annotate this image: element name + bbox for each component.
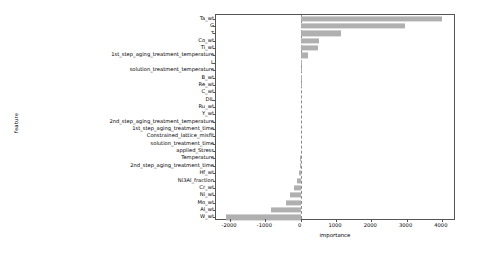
x-axis-title: importance: [215, 232, 455, 238]
y-tick-label: Re_wt: [199, 80, 214, 87]
y-tick-mark: [213, 203, 216, 204]
y-tick-label: solution_treatment_time: [151, 139, 214, 146]
y-tick-mark: [213, 173, 216, 174]
x-tick-label: -2000: [222, 222, 237, 228]
y-tick-mark: [213, 63, 216, 64]
y-tick-mark: [213, 70, 216, 71]
y-tick-mark: [213, 181, 216, 182]
bar: [301, 38, 319, 43]
y-tick-mark: [213, 166, 216, 167]
y-tick-mark: [213, 19, 216, 20]
y-tick-mark: [213, 129, 216, 130]
y-tick-label: G: [210, 22, 214, 29]
y-tick-mark: [213, 151, 216, 152]
y-tick-label: Al_wt: [200, 205, 214, 212]
y-tick-mark: [213, 78, 216, 79]
y-tick-label: applied_Stress: [176, 147, 214, 154]
bar: [301, 23, 405, 28]
bar: [294, 185, 301, 190]
x-tick-label: 0: [298, 222, 301, 228]
x-tick-label: -1000: [257, 222, 272, 228]
y-tick-label: Temperature: [181, 154, 214, 161]
y-tick-mark: [213, 107, 216, 108]
y-tick-label: Cr_wt: [199, 183, 214, 190]
y-tick-label: Constrained_lattice_misfit: [147, 132, 214, 139]
y-tick-mark: [213, 100, 216, 101]
y-tick-mark: [213, 136, 216, 137]
x-tick-label: 3000: [399, 222, 412, 228]
y-tick-mark: [213, 217, 216, 218]
y-tick-label: τ: [211, 29, 214, 36]
bar: [271, 207, 300, 212]
y-tick-mark: [213, 41, 216, 42]
y-tick-mark: [213, 158, 216, 159]
plot-area: [215, 14, 455, 220]
bar: [301, 53, 308, 58]
bar: [299, 171, 301, 176]
y-tick-mark: [213, 85, 216, 86]
y-tick-label: W_wt: [200, 213, 214, 220]
y-tick-label: L: [211, 58, 214, 65]
y-tick-label: Ni3Al_fraction: [178, 176, 214, 183]
y-tick-label: 1st_step_aging_treatment_time: [132, 125, 214, 132]
y-tick-mark: [213, 114, 216, 115]
y-tick-label: Ru_wt: [198, 102, 214, 109]
y-tick-label: Co_wt: [198, 36, 214, 43]
bar: [300, 163, 301, 168]
y-tick-label: Hf_wt: [199, 169, 214, 176]
y-tick-mark: [213, 48, 216, 49]
bar: [301, 16, 442, 21]
y-tick-mark: [213, 188, 216, 189]
y-tick-mark: [213, 33, 216, 34]
bar: [301, 31, 341, 36]
y-tick-label: Ti_wt: [201, 44, 214, 51]
x-tick-label: 4000: [434, 222, 447, 228]
bar: [226, 215, 301, 220]
feature-importance-chart: feature Ta_wtGτCo_wtTi_wt1st_step_aging_…: [0, 0, 477, 263]
bar: [290, 193, 301, 198]
y-tick-label: 2nd_step_aging_treatment_temperature: [109, 117, 214, 124]
y-tick-label: Mo_wt: [197, 198, 214, 205]
bar: [301, 60, 302, 65]
y-tick-label: DIL: [206, 95, 214, 102]
bar: [286, 200, 301, 205]
x-tick-label: 1000: [328, 222, 341, 228]
bar: [301, 46, 319, 51]
x-tick-label: 2000: [364, 222, 377, 228]
y-tick-label: solution_treatment_temperature: [130, 66, 214, 73]
y-tick-label: Y_wt: [202, 110, 214, 117]
y-tick-mark: [213, 122, 216, 123]
y-tick-mark: [213, 55, 216, 56]
bars-container: [216, 15, 454, 219]
y-tick-label: Ni_wt: [200, 191, 214, 198]
y-tick-label: Ta_wt: [200, 14, 214, 21]
y-tick-label: B_wt: [202, 73, 214, 80]
y-tick-mark: [213, 26, 216, 27]
y-tick-label: 2nd_step_aging_treatment_time: [130, 161, 214, 168]
y-tick-label: 1st_step_aging_treatment_temperature: [111, 51, 214, 58]
bar: [297, 178, 301, 183]
y-tick-mark: [213, 92, 216, 93]
y-tick-mark: [213, 144, 216, 145]
y-tick-label: C_wt: [202, 88, 215, 95]
y-tick-mark: [213, 195, 216, 196]
y-tick-mark: [213, 210, 216, 211]
x-axis-tick-labels: -2000-100001000200030004000: [215, 222, 455, 232]
y-axis-tick-labels: Ta_wtGτCo_wtTi_wt1st_step_aging_treatmen…: [18, 14, 214, 220]
